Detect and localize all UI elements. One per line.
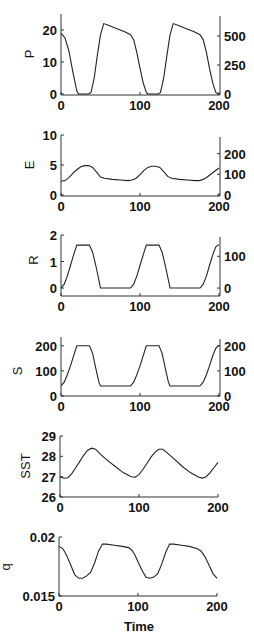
- x-tick-label: 100: [129, 399, 151, 414]
- y-tick-label: 0.015: [22, 589, 55, 604]
- y-tick-label-right: 100: [224, 167, 246, 182]
- y-tick-label: 0: [50, 87, 57, 102]
- x-tick-label: 200: [208, 299, 230, 314]
- panel-p: P 0102001002000250500: [22, 14, 246, 113]
- y-tick-label: 5: [50, 158, 57, 173]
- y-tick-label-right: 100: [224, 249, 246, 264]
- y-tick-label: 100: [35, 364, 57, 379]
- y-tick-label: 1: [50, 255, 57, 270]
- panel-q: q Time 0.0150.020100200: [0, 530, 228, 634]
- panel-e: E 051001002000100200: [22, 128, 246, 214]
- y-tick-label: 29: [42, 429, 56, 444]
- series-line-p: [61, 24, 218, 94]
- y-tick-label: 200: [35, 339, 57, 354]
- panel-sst: SST 262728290100200: [18, 429, 229, 515]
- ylabel-q: q: [0, 563, 13, 570]
- y-tick-label: 28: [42, 449, 56, 464]
- series-line-s: [61, 346, 219, 386]
- series-line-sst: [60, 448, 218, 478]
- x-tick-label: 0: [56, 500, 63, 515]
- y-tick-label-right: 200: [224, 339, 246, 354]
- series-line-e: [61, 166, 219, 182]
- x-tick-label: 200: [206, 599, 228, 614]
- ylabel-r: R: [26, 255, 41, 264]
- y-tick-label-right: 200: [224, 147, 246, 162]
- y-tick-label: 26: [42, 490, 56, 505]
- y-tick-label-right: 0: [224, 87, 231, 102]
- y-tick-label: 2: [50, 228, 57, 243]
- y-tick-label: 27: [42, 470, 56, 485]
- x-tick-label: 0: [57, 199, 64, 214]
- y-tick-label-right: 100: [224, 364, 246, 379]
- y-tick-label: 10: [43, 55, 57, 70]
- ylabel-s: S: [10, 366, 25, 375]
- figure: P 0102001002000250500 E 0510010020001002…: [0, 0, 254, 638]
- y-tick-label: 0: [50, 188, 57, 203]
- y-tick-label-right: 500: [224, 29, 246, 44]
- y-tick-label: 10: [43, 128, 57, 143]
- panel-r: R 01201002000100: [26, 228, 246, 314]
- ylabel-sst: SST: [18, 453, 33, 478]
- y-tick-label: 20: [43, 23, 57, 38]
- x-tick-label: 0: [55, 599, 62, 614]
- ylabel-e: E: [22, 160, 37, 169]
- x-tick-label: 0: [57, 299, 64, 314]
- y-tick-label-right: 0: [224, 188, 231, 203]
- y-tick-label-right: 0: [224, 389, 231, 404]
- ylabel-p: P: [22, 50, 37, 59]
- y-tick-label-right: 0: [224, 281, 231, 296]
- x-tick-label: 200: [207, 500, 229, 515]
- y-tick-label: 0.02: [30, 530, 55, 545]
- y-tick-label: 0: [50, 281, 57, 296]
- x-tick-label: 100: [128, 500, 150, 515]
- y-tick-label: 0: [50, 389, 57, 404]
- series-line-q: [59, 544, 217, 578]
- x-tick-label: 100: [129, 299, 151, 314]
- panel-s: S 010020001002000100200: [10, 337, 246, 414]
- series-line-r: [61, 245, 219, 288]
- x-tick-label: 100: [129, 98, 151, 113]
- x-tick-label: 100: [129, 199, 151, 214]
- x-tick-label: 100: [127, 599, 149, 614]
- x-tick-label: 0: [57, 399, 64, 414]
- y-tick-label-right: 250: [224, 58, 246, 73]
- xlabel-time: Time: [124, 619, 154, 634]
- x-tick-label: 0: [57, 98, 64, 113]
